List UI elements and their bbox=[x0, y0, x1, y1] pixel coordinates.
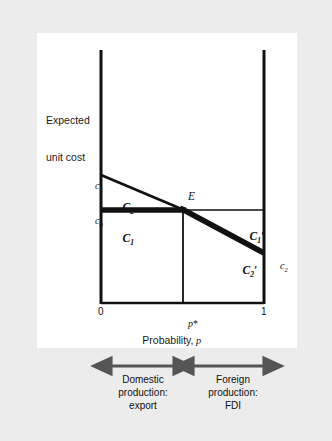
annotation-domestic-line1: Domestic bbox=[93, 373, 193, 386]
curve-label-c2-prime: C2′ bbox=[231, 250, 257, 293]
y-tick-c2-sub: 2 bbox=[284, 266, 287, 273]
annotation-foreign-line1: Foreign bbox=[183, 373, 283, 386]
annotation-foreign: Foreign production: FDI bbox=[183, 373, 283, 413]
annotation-foreign-line2: production: bbox=[183, 386, 283, 399]
curve-label-c1: C1 bbox=[111, 218, 134, 261]
y-tick-c2: c2 bbox=[270, 248, 288, 285]
y-tick-c0-sub: 0 bbox=[99, 221, 102, 228]
y-axis-label-line2: unit cost bbox=[46, 151, 90, 163]
annotation-domestic-line3: export bbox=[93, 399, 193, 412]
x-axis-label-text: Probability, bbox=[142, 334, 193, 346]
y-tick-c1-sub: 1 bbox=[99, 186, 102, 193]
curve-label-c2-sub: 2 bbox=[130, 207, 134, 216]
y-tick-c1: c1 bbox=[85, 168, 103, 205]
y-tick-c0: c0 bbox=[85, 203, 103, 240]
curve-label-c1-prime-mark: ′ bbox=[261, 230, 264, 242]
annotation-domestic: Domestic production: export bbox=[93, 373, 193, 413]
x-axis-label: Probability, p bbox=[0, 322, 332, 360]
y-axis-label: Expected unit cost bbox=[46, 89, 90, 188]
figure-panel bbox=[37, 33, 297, 348]
y-axis-label-line1: Expected bbox=[46, 114, 90, 126]
annotation-domestic-line2: production: bbox=[93, 386, 193, 399]
equilibrium-label-e: E bbox=[188, 190, 195, 204]
annotation-foreign-line3: FDI bbox=[183, 399, 283, 412]
x-tick-1: 1 bbox=[261, 306, 267, 318]
curve-label-c1-sub: 1 bbox=[130, 238, 134, 247]
x-tick-0: 0 bbox=[98, 306, 104, 318]
x-axis-label-var: p bbox=[196, 335, 201, 346]
curve-label-c2-prime-mark: ′ bbox=[254, 264, 257, 276]
figure-canvas: Expected unit cost c1 c0 c2 C2 C1 C1′ C2… bbox=[0, 0, 332, 441]
